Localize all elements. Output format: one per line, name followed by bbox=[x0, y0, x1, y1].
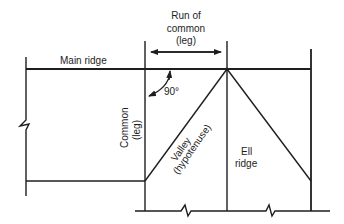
ell-ridge-label-line2: ridge bbox=[235, 158, 258, 169]
angle-label: 90° bbox=[164, 86, 179, 97]
ell-ridge-label-line1: Ell bbox=[241, 146, 252, 157]
common-label-line1: Common bbox=[119, 107, 130, 148]
common-label-line2: (leg) bbox=[131, 120, 142, 140]
peak-point bbox=[225, 67, 228, 70]
main-ridge-label: Main ridge bbox=[60, 55, 107, 66]
run-label-line2: common bbox=[167, 23, 205, 34]
right-angle-arc-top bbox=[169, 71, 170, 80]
bottom-break-line bbox=[135, 205, 330, 216]
left-break-line bbox=[20, 57, 29, 196]
run-label-line1: Run of bbox=[171, 10, 201, 21]
run-label-line3: (leg) bbox=[176, 35, 196, 46]
roof-framing-diagram: Run of common (leg) Main ridge 90° Commo… bbox=[0, 0, 344, 224]
